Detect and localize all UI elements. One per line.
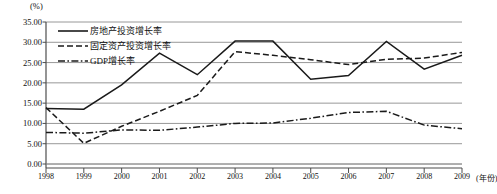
legend-label: GDP增长率 [90,55,135,66]
x-axis-unit-label: (年份) [476,172,497,183]
legend-label: 房地产投资增长率 [90,25,162,36]
x-axis-ticks [46,168,462,173]
legend-label: 固定资产投资增长率 [90,40,171,51]
chart-legend: 房地产投资增长率固定资产投资增长率GDP增长率 [58,25,171,66]
series-line [46,111,462,133]
